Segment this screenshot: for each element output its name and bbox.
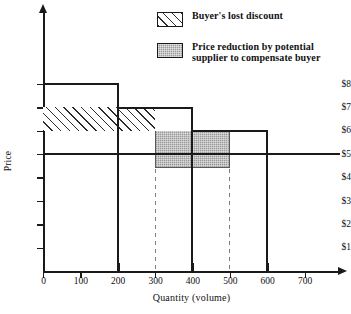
step-drop-at-600 — [266, 130, 268, 272]
x-label-200: 200 — [98, 277, 138, 287]
legend-entry-lost-discount: Buyer's lost discount — [157, 10, 347, 22]
region-price-reduction-right-edge — [229, 131, 230, 168]
dashed-guide-300 — [155, 169, 157, 273]
legend-entry-price-reduction: Price reduction by potential supplier to… — [157, 41, 347, 64]
x-label-600: 600 — [248, 277, 288, 287]
dashed-guide-500 — [229, 169, 231, 273]
vertical-boundary-400 — [191, 131, 193, 272]
y-axis-title: Price — [3, 138, 13, 184]
region-price-reduction-left-edge — [155, 131, 156, 168]
legend-swatch-hatched-icon — [157, 12, 183, 27]
x-label-700: 700 — [285, 277, 325, 287]
x-label-300: 300 — [136, 277, 176, 287]
step-segment-price-7 — [117, 107, 193, 109]
legend-swatch-gray-icon — [157, 43, 183, 58]
step-drop-at-400 — [191, 107, 193, 131]
legend-label-price-reduction-line1: Price reduction by potential — [192, 41, 347, 53]
x-label-100: 100 — [61, 277, 101, 287]
step-drop-at-200 — [117, 83, 119, 107]
vertical-boundary-200 — [117, 108, 119, 273]
step-segment-price-6 — [191, 130, 267, 132]
x-label-500: 500 — [210, 277, 250, 287]
x-label-400: 400 — [173, 277, 213, 287]
legend-label-price-reduction-line2: supplier to compensate buyer — [192, 52, 347, 64]
region-buyers-lost-discount — [43, 107, 155, 130]
x-axis-title: Quantity (volume) — [43, 292, 340, 303]
supplier-price-line-5 — [43, 153, 340, 155]
x-label-0: 0 — [24, 277, 64, 287]
price-volume-chart: $8 $7 $6 $5 $4 $3 $2 $1 Price 0 100 200 … — [0, 0, 351, 314]
step-segment-price-8 — [43, 83, 118, 85]
chart-legend: Buyer's lost discount Price reduction by… — [157, 10, 347, 77]
legend-label-lost-discount: Buyer's lost discount — [192, 10, 347, 22]
